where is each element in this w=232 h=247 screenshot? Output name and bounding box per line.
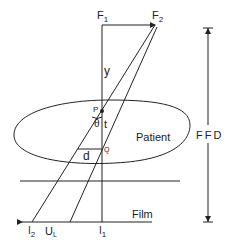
label-i2: I2 bbox=[28, 225, 36, 239]
label-d: d bbox=[83, 149, 90, 163]
label-p: P bbox=[93, 105, 98, 114]
ray-f2-to-ul bbox=[70, 27, 157, 222]
label-ffd: FFD bbox=[196, 129, 223, 141]
label-film: Film bbox=[132, 208, 153, 220]
label-t: t bbox=[104, 118, 107, 130]
label-y: y bbox=[104, 64, 110, 78]
label-theta: θ bbox=[94, 118, 100, 129]
point-p-marker bbox=[100, 109, 104, 113]
label-patient: Patient bbox=[136, 131, 170, 143]
label-i1: I1 bbox=[99, 225, 107, 239]
ffd-bottom-arrow bbox=[205, 216, 211, 222]
label-ul: UL bbox=[45, 225, 57, 238]
label-f2: F2 bbox=[152, 9, 164, 24]
label-q: Q bbox=[104, 146, 110, 154]
ffd-top-arrow bbox=[205, 28, 211, 34]
label-f1: F1 bbox=[97, 9, 109, 24]
geometric-unsharpness-diagram: F1 F2 y P θ t Q d Patient FFD Film I2 UL… bbox=[0, 0, 232, 247]
